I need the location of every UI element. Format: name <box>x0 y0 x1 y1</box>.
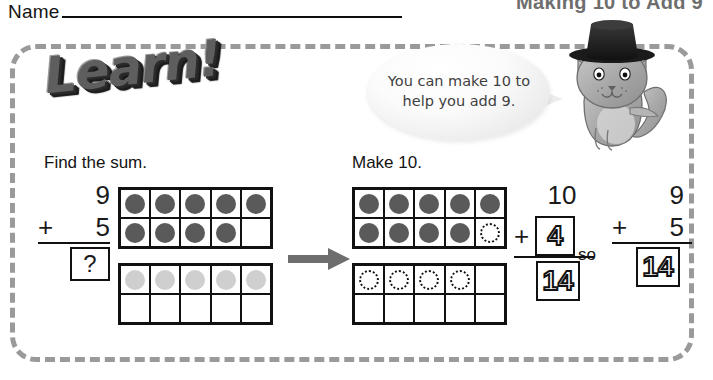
counter-dashed <box>480 223 500 243</box>
counter-dark <box>450 223 470 243</box>
made-ten-plus-sign: + <box>514 216 529 256</box>
made-ten-sum: 14 <box>542 265 573 297</box>
lesson-title: Making 10 to Add 9 <box>516 0 703 14</box>
right-tenframe-bottom <box>352 263 507 325</box>
left-tenframe-top <box>118 187 273 249</box>
left-vertical-addition: 9 + 5 ? <box>38 180 110 281</box>
counter-dark <box>389 223 409 243</box>
counter-dashed <box>389 270 409 290</box>
so-connector: so <box>578 245 596 265</box>
left-answer-box[interactable]: ? <box>70 247 110 281</box>
tenframe-cell[interactable] <box>475 189 505 218</box>
counter-dark <box>389 194 409 214</box>
made-ten-addend-bottom: 4 <box>547 220 563 252</box>
tenframe-cell[interactable] <box>354 218 384 247</box>
left-addend-row: + 5 <box>38 212 110 244</box>
tenframe-cell[interactable] <box>354 294 384 323</box>
tenframe-cell[interactable] <box>414 218 444 247</box>
left-addend-top: 9 <box>38 180 110 210</box>
made-ten-sum-box[interactable]: 14 <box>536 261 580 301</box>
tenframe-cell[interactable] <box>180 189 210 218</box>
tenframe-cell[interactable] <box>414 294 444 323</box>
tenframe-cell[interactable] <box>241 265 271 294</box>
tenframe-cell[interactable] <box>120 218 150 247</box>
counter-light <box>246 270 266 290</box>
cat-with-top-hat-icon <box>548 16 676 156</box>
tenframe-cell[interactable] <box>384 218 414 247</box>
counter-light <box>155 270 175 290</box>
original-sum-box[interactable]: 14 <box>636 247 680 287</box>
made-ten-equation: 10 + 4 14 <box>514 180 594 301</box>
right-arrow-icon <box>288 248 350 270</box>
tenframe-cell[interactable] <box>241 189 271 218</box>
tenframe-cell[interactable] <box>445 189 475 218</box>
tenframe-cell[interactable] <box>180 218 210 247</box>
tenframe-cell[interactable] <box>150 294 180 323</box>
counter-dark <box>216 223 236 243</box>
tenframe-cell[interactable] <box>384 294 414 323</box>
tenframe-cell[interactable] <box>475 265 505 294</box>
tenframe-cell[interactable] <box>384 189 414 218</box>
left-answer-value: ? <box>83 250 96 278</box>
name-write-line[interactable] <box>62 16 402 18</box>
tenframe-cell[interactable] <box>150 218 180 247</box>
tenframe-cell[interactable] <box>120 294 150 323</box>
counter-dark <box>125 194 145 214</box>
left-tenframe-bottom <box>118 263 273 325</box>
name-label: Name <box>8 2 59 21</box>
counter-dashed <box>419 270 439 290</box>
tenframe-cell[interactable] <box>475 218 505 247</box>
counter-light <box>185 270 205 290</box>
original-addend-top: 9 <box>612 180 692 210</box>
counter-dark <box>216 194 236 214</box>
tenframe-cell[interactable] <box>414 265 444 294</box>
left-addend-bottom: 5 <box>96 212 110 242</box>
tenframe-cell[interactable] <box>120 189 150 218</box>
original-plus-sign: + <box>612 212 627 242</box>
left-caption: Find the sum. <box>44 153 147 173</box>
counter-dark <box>155 194 175 214</box>
tenframe-cell[interactable] <box>354 265 384 294</box>
counter-dark <box>185 194 205 214</box>
tenframe-cell[interactable] <box>354 189 384 218</box>
tenframe-cell[interactable] <box>211 189 241 218</box>
counter-dark <box>185 223 205 243</box>
tenframe-cell[interactable] <box>445 294 475 323</box>
counter-dark <box>246 194 266 214</box>
counter-dark <box>419 223 439 243</box>
right-caption: Make 10. <box>352 153 422 173</box>
counter-dark <box>419 194 439 214</box>
tenframe-cell[interactable] <box>150 265 180 294</box>
counter-dark <box>359 194 379 214</box>
counter-dashed <box>359 270 379 290</box>
original-sum: 14 <box>642 251 673 283</box>
tenframe-cell[interactable] <box>120 265 150 294</box>
tenframe-cell[interactable] <box>414 189 444 218</box>
tenframe-cell[interactable] <box>180 265 210 294</box>
counter-light <box>216 270 236 290</box>
right-tenframe-top <box>352 187 507 249</box>
tenframe-cell[interactable] <box>384 265 414 294</box>
tenframe-cell[interactable] <box>475 294 505 323</box>
speech-bubble-text: You can make 10 to help you add 9. <box>368 72 550 111</box>
original-addend-bottom: 5 <box>670 212 684 242</box>
tenframe-cell[interactable] <box>241 218 271 247</box>
tenframe-cell[interactable] <box>150 189 180 218</box>
counter-dark <box>155 223 175 243</box>
counter-dark <box>450 194 470 214</box>
counter-dark <box>480 194 500 214</box>
name-row: Name <box>8 2 402 21</box>
original-addend-row: + 5 <box>612 212 692 244</box>
tenframe-cell[interactable] <box>241 294 271 323</box>
made-ten-addend-box[interactable]: 4 <box>535 216 575 256</box>
tenframe-cell[interactable] <box>211 294 241 323</box>
speech-bubble: You can make 10 to help you add 9. <box>368 44 550 140</box>
tenframe-cell[interactable] <box>445 218 475 247</box>
tenframe-cell[interactable] <box>445 265 475 294</box>
tenframe-cell[interactable] <box>211 265 241 294</box>
tenframe-cell[interactable] <box>211 218 241 247</box>
tenframe-cell[interactable] <box>180 294 210 323</box>
counter-dark <box>359 223 379 243</box>
worksheet-page: Name Making 10 to Add 9 Learn! You can m… <box>0 0 713 380</box>
counter-dashed <box>450 270 470 290</box>
